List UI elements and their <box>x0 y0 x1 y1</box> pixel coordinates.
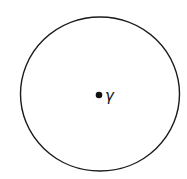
point-label: γ <box>105 87 115 105</box>
center-point <box>96 92 103 99</box>
circle-diagram: γ <box>0 0 187 179</box>
